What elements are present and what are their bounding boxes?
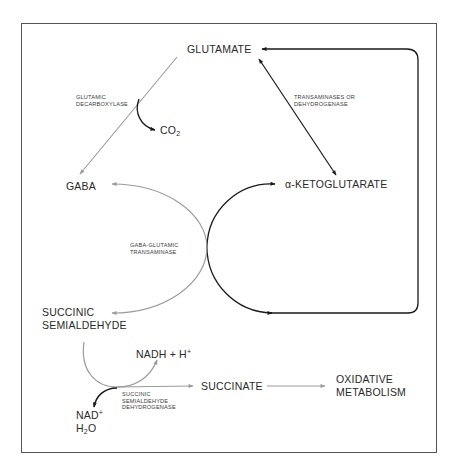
glutamate-to-gaba-arrow	[80, 57, 177, 174]
enzyme-gaba-glutamic-transaminase: GABA-GLUTAMIC TRANSAMINASE	[130, 242, 179, 255]
transamination-to-akg-arc	[207, 184, 275, 247]
glutamate-akg-double-arrow	[259, 59, 336, 175]
node-succinic-semialdehyde-line2: SEMIALDEHYDE	[42, 319, 127, 332]
h2o-o: O	[88, 422, 96, 434]
enzyme-ssa-dehydrogenase-line3: DEHYDROGENASE	[122, 404, 176, 411]
h2o-h: H	[76, 422, 84, 434]
cofactor-nad: NAD+	[76, 406, 103, 422]
cofactor-h2o: H2O	[76, 422, 103, 438]
nadh-text: NADH + H	[136, 348, 187, 360]
node-alpha-ketoglutarate: α-KETOGLUTARATE	[285, 178, 387, 191]
cofactor-nad-h2o: NAD+ H2O	[76, 406, 103, 438]
node-oxidative-metabolism-line2: METABOLISM	[336, 386, 406, 399]
pathway-arrows	[0, 0, 457, 475]
enzyme-transaminases: TRANSAMINASES OR DEHYDROGENASE	[294, 94, 355, 107]
transamination-to-loop-arc	[207, 247, 272, 313]
enzyme-glutamic-decarboxylase-line2: DECARBOXYLASE	[76, 101, 128, 108]
node-succinic-semialdehyde-line1: SUCCINIC	[42, 306, 127, 319]
node-glutamate: GLUTAMATE	[187, 43, 251, 56]
cofactor-nadh: NADH + H+	[136, 345, 191, 361]
gaba-transaminase-arc-top	[112, 184, 207, 247]
node-succinic-semialdehyde: SUCCINIC SEMIALDEHYDE	[42, 306, 127, 332]
node-oxidative-metabolism-line1: OXIDATIVE	[336, 373, 406, 386]
node-succinate: SUCCINATE	[201, 380, 263, 393]
nad-h2o-arrow	[94, 388, 117, 407]
enzyme-ssa-dehydrogenase-line2: SEMIALDEHYDE	[122, 398, 176, 405]
nad-superscript: +	[99, 409, 103, 416]
co2-subscript: 2	[176, 130, 180, 137]
enzyme-gaba-transaminase-line2: TRANSAMINASE	[130, 249, 179, 256]
node-oxidative-metabolism: OXIDATIVE METABOLISM	[336, 373, 406, 399]
nad-text: NAD	[76, 409, 99, 421]
enzyme-ssa-dehydrogenase-line1: SUCCINIC	[122, 391, 176, 398]
enzyme-glutamic-decarboxylase-line1: GLUTAMIC	[76, 94, 128, 101]
gaba-transaminase-arc-bottom	[112, 247, 207, 313]
byproduct-co2: CO2	[160, 124, 180, 140]
enzyme-transaminases-line2: DEHYDROGENASE	[294, 101, 355, 108]
enzyme-transaminases-line1: TRANSAMINASES OR	[294, 94, 355, 101]
enzyme-ssa-dehydrogenase: SUCCINIC SEMIALDEHYDE DEHYDROGENASE	[122, 391, 176, 411]
enzyme-gaba-transaminase-line1: GABA-GLUTAMIC	[130, 242, 179, 249]
enzyme-glutamic-decarboxylase: GLUTAMIC DECARBOXYLASE	[76, 94, 128, 107]
nadh-superscript: +	[187, 348, 191, 355]
co2-release-arrow	[137, 99, 155, 130]
node-gaba: GABA	[66, 180, 96, 193]
co2-text: CO	[160, 124, 176, 136]
